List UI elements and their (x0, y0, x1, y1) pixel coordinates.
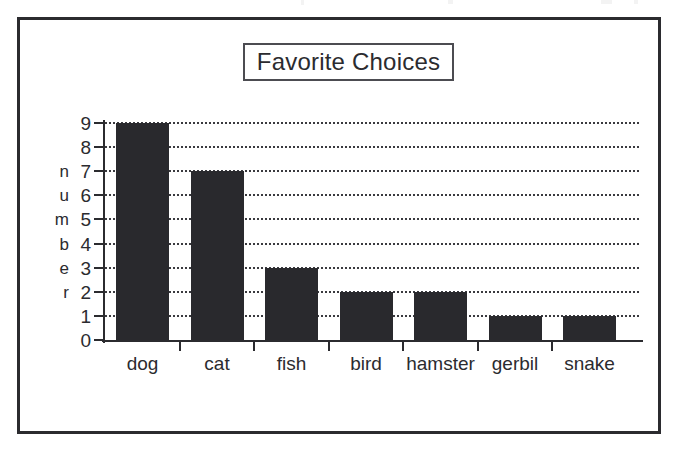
y-axis-tick (94, 170, 105, 172)
y-axis-tick-label: 3 (80, 258, 91, 277)
x-axis-category-label: bird (350, 354, 382, 373)
y-axis-tick (94, 218, 105, 220)
y-axis-tick (94, 146, 105, 148)
x-axis-tick (253, 342, 255, 351)
bar (116, 123, 169, 340)
y-axis-tick-label: 8 (80, 138, 91, 157)
x-axis-category-label: cat (204, 354, 229, 373)
y-axis-tick-label: 1 (80, 306, 91, 325)
y-axis-tick-label: 2 (80, 282, 91, 301)
x-axis-tick (328, 342, 330, 351)
chart-title: Favorite Choices (257, 48, 440, 76)
gridline (105, 267, 641, 269)
bar (191, 171, 244, 340)
y-axis-title-letter: b (60, 235, 69, 252)
gridline (105, 218, 641, 220)
bar (265, 268, 318, 340)
bar (414, 292, 467, 340)
y-axis-tick (94, 122, 105, 124)
gridline (105, 194, 641, 196)
x-axis-line (102, 340, 643, 342)
bar (489, 316, 542, 340)
x-axis-category-label: fish (277, 354, 307, 373)
x-axis-tick (179, 342, 181, 351)
y-axis-tick-label: 9 (80, 114, 91, 133)
gridline (105, 146, 641, 148)
plot-area: 0123456789 number dogcatfishbirdhamsterg… (103, 123, 641, 340)
x-axis-category-label: snake (564, 354, 615, 373)
gridline (105, 243, 641, 245)
y-axis-tick (94, 243, 105, 245)
y-axis-title-letter: e (60, 259, 69, 276)
x-axis-tick (551, 342, 553, 351)
gridline (105, 122, 641, 124)
y-axis-tick (94, 194, 105, 196)
y-axis-tick-label: 4 (80, 234, 91, 253)
scan-artifact (601, 0, 612, 4)
y-axis-tick-label: 7 (80, 162, 91, 181)
y-axis-title-letter: r (63, 283, 69, 300)
chart-page: Favorite Choices 0123456789 number dogca… (0, 0, 677, 449)
y-axis-tick (94, 339, 105, 341)
y-axis-tick (94, 291, 105, 293)
x-axis-category-label: dog (127, 354, 159, 373)
y-axis-line (103, 120, 105, 343)
x-axis-tick (477, 342, 479, 351)
x-axis-tick (402, 342, 404, 351)
y-axis-tick-label: 6 (80, 186, 91, 205)
y-axis-tick-label: 0 (80, 331, 91, 350)
bar (563, 316, 616, 340)
x-axis-category-label: hamster (406, 354, 475, 373)
y-axis-title-letter: u (60, 187, 69, 204)
scan-artifact (634, 0, 638, 4)
x-axis-category-label: gerbil (492, 354, 538, 373)
scan-artifact (301, 0, 304, 5)
gridline (105, 170, 641, 172)
bar (340, 292, 393, 340)
y-axis-title-letter: n (60, 163, 69, 180)
chart-frame: Favorite Choices 0123456789 number dogca… (17, 17, 661, 434)
y-axis-title-letter: m (55, 211, 69, 228)
scan-artifact (448, 0, 453, 4)
y-axis-tick (94, 267, 105, 269)
chart-title-box: Favorite Choices (243, 43, 454, 81)
y-axis-tick-label: 5 (80, 210, 91, 229)
y-axis-tick (94, 315, 105, 317)
